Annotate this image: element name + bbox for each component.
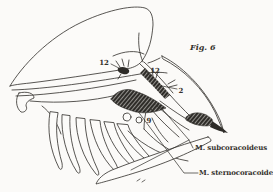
anatomical-line-drawing (0, 0, 273, 192)
anatomical-figure: Fig. 6 12 12 2 9 M. subcoracoideus M. st… (0, 0, 273, 192)
bone-section-circles (123, 113, 142, 123)
annotation-12-left: 12 (99, 59, 109, 66)
annotation-2: 2 (179, 87, 184, 94)
rib-fan (49, 107, 196, 175)
annotation-9: 9 (147, 117, 152, 124)
figure-caption: Fig. 6 (190, 43, 215, 51)
muscle-label-subcoracoideus: M. subcoracoideus (195, 144, 267, 151)
muscle-label-sternocoracoideus: M. sternocoracoideus (199, 169, 273, 176)
annotation-12-right: 12 (150, 67, 160, 74)
